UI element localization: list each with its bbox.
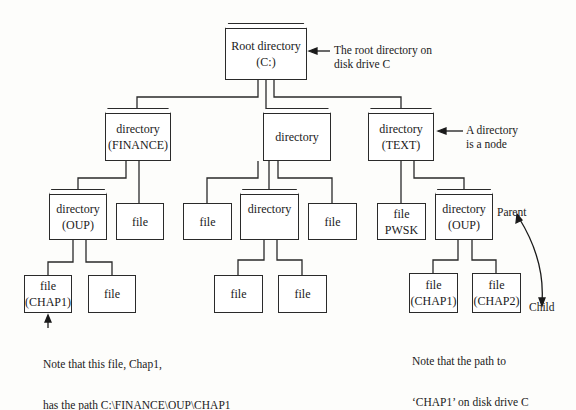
root-annotation: The root directory on disk drive C (334, 44, 432, 71)
annotation-line: disk drive C (334, 58, 432, 72)
node-label: file (40, 278, 56, 294)
node-label: directory (248, 201, 291, 217)
note-left: Note that this file, Chap1, has the path… (43, 331, 231, 410)
node-label: file (104, 286, 120, 302)
node-label: directory (275, 129, 318, 145)
node-sublabel: (CHAP2) (473, 293, 519, 309)
note-line: has the path C:\FINANCE\OUP\CHAP1 (43, 399, 231, 410)
node-label: file (200, 214, 216, 230)
node-label: file (426, 277, 442, 293)
node-sublabel: (OUP) (448, 217, 480, 233)
file-node-chap1-finance[interactable]: file (CHAP1) (24, 275, 72, 313)
directory-node-text[interactable]: directory (TEXT) (368, 113, 434, 161)
node-sublabel: (CHAP1) (25, 294, 71, 310)
node-label: directory (116, 121, 159, 137)
node-label: file (295, 286, 311, 302)
node-annotation: A directory is a node (466, 124, 518, 151)
file-node-chap2-text[interactable]: file (CHAP2) (472, 273, 521, 313)
note-line: ‘CHAP1’ on disk drive C (412, 396, 529, 410)
node-label: file (132, 214, 148, 230)
directory-node-finance[interactable]: directory (FINANCE) (105, 113, 171, 161)
file-node[interactable]: file (88, 275, 136, 313)
node-sublabel: (FINANCE) (108, 137, 168, 153)
directory-node-middle[interactable]: directory (263, 113, 331, 161)
root-directory-node[interactable]: Root directory (C:) (225, 28, 307, 80)
file-node[interactable]: file (278, 275, 327, 313)
node-sublabel: (CHAP1) (410, 293, 456, 309)
directory-node-oup-finance[interactable]: directory (OUP) (49, 194, 107, 240)
file-node[interactable]: file (308, 203, 357, 240)
file-node-pwsk[interactable]: file PWSK (377, 203, 426, 240)
annotation-line: A directory (466, 124, 518, 138)
child-label: Child (529, 301, 555, 315)
annotation-line: The root directory on (334, 44, 432, 58)
node-label: directory (442, 201, 485, 217)
node-sublabel: PWSK (385, 222, 418, 238)
directory-node-oup-text[interactable]: directory (OUP) (435, 194, 493, 240)
node-sublabel: (TEXT) (382, 137, 421, 153)
parent-label: Parent (497, 206, 526, 220)
annotation-line: is a node (466, 138, 518, 152)
node-label: file (231, 286, 247, 302)
directory-node-sub[interactable]: directory (240, 194, 299, 240)
file-node-chap1-text[interactable]: file (CHAP1) (409, 273, 458, 313)
note-right: Note that the path to ‘CHAP1’ on disk dr… (412, 328, 529, 410)
note-line: Note that this file, Chap1, (43, 358, 231, 372)
node-label: directory (379, 121, 422, 137)
file-node[interactable]: file (214, 275, 263, 313)
node-sublabel: (C:) (256, 54, 275, 70)
node-label: Root directory (231, 38, 301, 54)
note-line: Note that the path to (412, 355, 529, 369)
node-sublabel: (OUP) (62, 217, 94, 233)
file-node[interactable]: file (116, 203, 164, 240)
node-label: directory (56, 201, 99, 217)
node-label: file (489, 277, 505, 293)
file-node[interactable]: file (183, 203, 232, 240)
node-label: file (325, 214, 341, 230)
node-label: file (394, 206, 410, 222)
